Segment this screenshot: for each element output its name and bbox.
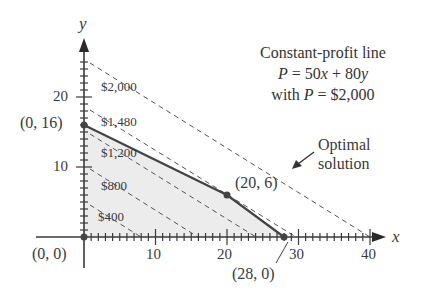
iso-label-800: $800 — [101, 178, 127, 194]
y-axis-label: y — [79, 14, 87, 34]
title-line-1: Constant-profit line — [233, 42, 413, 63]
iso-label-2000: $2,000 — [101, 79, 137, 95]
x-tick-40: 40 — [361, 246, 376, 263]
title-line-3: with P = $2,000 — [233, 84, 413, 105]
y-tick-20: 20 — [53, 88, 68, 105]
point-origin — [81, 234, 88, 241]
optimal-label-line-1: Optimal — [318, 136, 370, 154]
x-axis — [36, 237, 372, 268]
point-28-0 — [281, 234, 288, 241]
y-tick-10: 10 — [53, 158, 68, 175]
vertex-label-28-0: (28, 0) — [232, 265, 275, 283]
leader-28-0 — [276, 242, 288, 263]
y-axis-arrow-icon — [79, 38, 89, 52]
title-block: Constant-profit line P = 50x + 80y with … — [233, 42, 413, 105]
optimal-label-line-2: solution — [318, 155, 370, 173]
x-tick-20: 20 — [217, 246, 232, 263]
vertex-label-20-6: (20, 6) — [235, 174, 278, 192]
iso-label-1480: $1,480 — [101, 114, 137, 130]
point-20-6 — [224, 192, 231, 199]
x-axis-arrow-icon — [372, 232, 386, 242]
iso-label-400: $400 — [98, 209, 124, 225]
x-tick-10: 10 — [146, 246, 161, 263]
vertex-label-origin: (0, 0) — [32, 245, 67, 263]
optimal-arrow-icon — [292, 152, 314, 169]
title-line-2: P = 50x + 80y — [233, 63, 413, 84]
x-axis-label: x — [392, 227, 400, 247]
point-0-16 — [81, 122, 88, 129]
x-tick-30: 30 — [289, 246, 304, 263]
iso-label-1200: $1,200 — [101, 145, 137, 161]
vertex-label-0-16: (0, 16) — [20, 114, 63, 132]
